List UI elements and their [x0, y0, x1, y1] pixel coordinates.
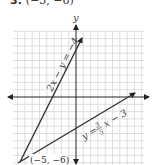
y-axis-label: y	[72, 12, 79, 23]
intersection-label: (−5, −6)	[30, 155, 69, 165]
grid	[13, 31, 144, 165]
svg-text:5: 5	[98, 128, 106, 137]
line1-label: 2x − y = −4	[44, 36, 81, 94]
graph: y 2x − y = −4 y = 3 5 x − 3 (−5, −6)	[0, 0, 153, 165]
